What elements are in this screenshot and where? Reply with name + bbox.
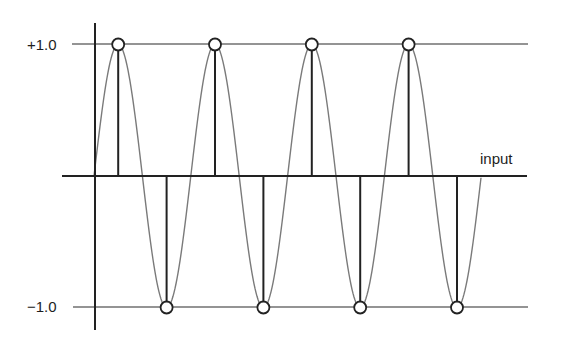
sample-point-circle xyxy=(257,302,269,314)
sample-point-circle xyxy=(112,39,124,51)
sample-point-circle xyxy=(306,39,318,51)
y-max-label: +1.0 xyxy=(27,37,57,52)
sample-point-circle xyxy=(451,302,463,314)
sample-point-circle xyxy=(354,302,366,314)
input-axis-label: input xyxy=(480,151,513,166)
sample-point-circle xyxy=(161,302,173,314)
sample-point-circle xyxy=(209,39,221,51)
sampled-sine-diagram xyxy=(0,0,564,345)
sample-point-circle xyxy=(403,39,415,51)
y-min-label: −1.0 xyxy=(27,299,57,314)
